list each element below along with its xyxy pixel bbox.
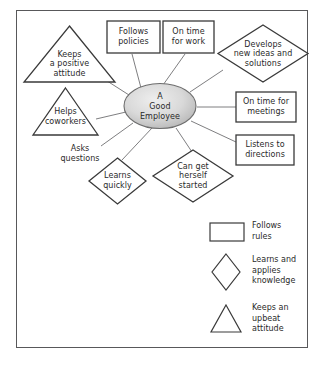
- legend-label-learns-and-applies-knowledge: Learns and applies knowledge: [252, 255, 310, 287]
- connector-develops-new-ideas: [190, 70, 223, 92]
- connector-on-time-for-work: [163, 54, 185, 85]
- node-shape-learns-quickly[interactable]: [89, 158, 146, 204]
- legend-label-keeps-an-upbeat-attitude: Keeps an upbeat attitude: [252, 303, 310, 335]
- connector-learns-quickly: [122, 128, 152, 160]
- connector-follows-policies: [132, 54, 141, 88]
- node-shape-helps-coworkers[interactable]: [33, 88, 98, 135]
- connector-listens-to-directions: [191, 121, 236, 142]
- node-shape-can-get-herself-started[interactable]: [153, 150, 233, 202]
- node-shape-on-time-for-meetings[interactable]: [236, 92, 296, 122]
- legend-label-follows-rules: Follows rules: [252, 221, 310, 242]
- diagram-canvas: Keeps a positive attitude Follows polici…: [0, 0, 332, 367]
- connector-asks-questions: [101, 123, 133, 146]
- legend-shape-triangle: [211, 305, 241, 332]
- node-shape-follows-policies[interactable]: [107, 21, 160, 53]
- connector-helps-coworkers: [96, 112, 126, 119]
- legend-shape-diamond: [212, 254, 240, 290]
- legend-shape-rectangle: [210, 223, 244, 241]
- center-node-ellipse[interactable]: [124, 84, 196, 129]
- node-shape-listens-to-directions[interactable]: [236, 135, 294, 165]
- node-shape-develops-new-ideas-and-solutions[interactable]: [218, 25, 308, 82]
- node-shape-keeps-a-positive-attitude[interactable]: [24, 26, 115, 82]
- connector-can-get-herself-started: [176, 128, 192, 152]
- node-shape-on-time-for-work[interactable]: [163, 21, 214, 53]
